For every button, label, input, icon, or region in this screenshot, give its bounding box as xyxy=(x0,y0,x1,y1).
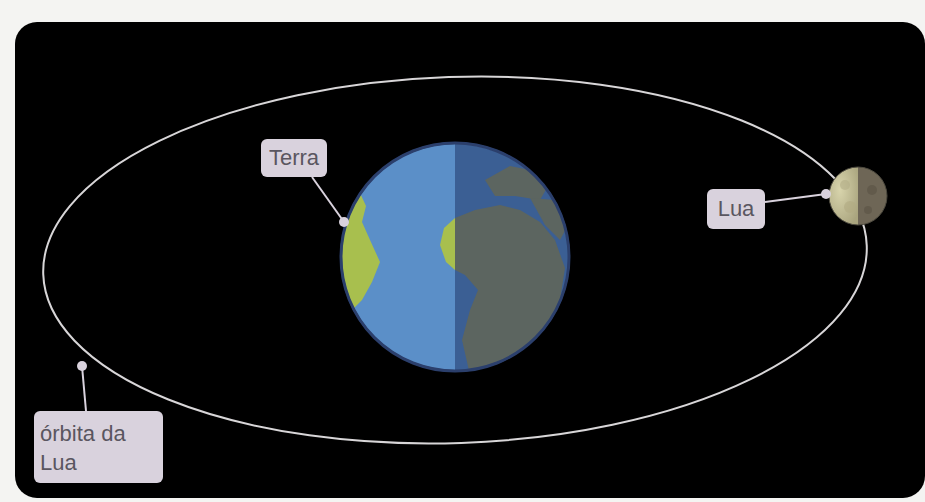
terra-leader-line xyxy=(312,177,349,227)
orbit-leader-line xyxy=(77,361,87,411)
earth-icon xyxy=(340,140,575,375)
lua-leader-line xyxy=(765,189,831,202)
orbita-label-line1: órbita da xyxy=(40,419,157,448)
orbita-label-line2: Lua xyxy=(40,448,157,477)
lua-label: Lua xyxy=(707,189,765,229)
terra-label: Terra xyxy=(261,139,327,177)
moon-icon xyxy=(828,166,888,226)
orbita-label: órbita da Lua xyxy=(34,411,163,483)
